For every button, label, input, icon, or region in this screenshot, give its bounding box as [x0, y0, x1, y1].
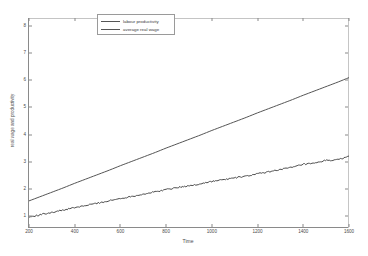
y-axis-tick-mark [29, 53, 32, 54]
y-axis-tick-mark-right [345, 53, 348, 54]
x-axis-tick-mark-top [29, 18, 30, 21]
legend-label: average real wage [123, 27, 159, 32]
series-line-labour-productivity [29, 78, 349, 201]
y-axis-tick-label: 2 [23, 186, 26, 191]
series-line-average-real-wage [29, 156, 349, 217]
x-axis-tick-label: 200 [25, 230, 33, 235]
y-axis-tick-mark [29, 26, 32, 27]
x-axis-tick-mark [120, 224, 121, 227]
y-axis-tick-mark [29, 215, 32, 216]
x-axis-tick-mark [74, 224, 75, 227]
y-axis-tick-mark-right [345, 161, 348, 162]
x-axis-tick-mark-top [257, 18, 258, 21]
y-axis-tick-mark-right [345, 188, 348, 189]
x-axis-tick-label: 400 [71, 230, 79, 235]
legend-item-average-real-wage: average real wage [101, 25, 171, 33]
x-axis-tick-mark [166, 224, 167, 227]
y-axis-tick-mark-right [345, 107, 348, 108]
x-axis-tick-label: 1400 [298, 230, 308, 235]
legend-item-labour-productivity: labour productivity [101, 17, 171, 25]
x-axis-tick-label: 600 [117, 230, 125, 235]
x-axis-tick-mark [257, 224, 258, 227]
x-axis-tick-mark [349, 224, 350, 227]
y-axis-tick-label: 6 [23, 78, 26, 83]
y-axis-tick-label: 8 [23, 24, 26, 29]
y-axis-tick-label: 5 [23, 105, 26, 110]
legend-line-icon [101, 29, 120, 30]
y-axis-tick-mark-right [345, 80, 348, 81]
y-axis-tick-label: 7 [23, 51, 26, 56]
x-axis-tick-label: 1600 [344, 230, 354, 235]
y-axis-tick-mark-right [345, 134, 348, 135]
y-axis-tick-mark [29, 161, 32, 162]
x-axis-title: Time [28, 238, 348, 244]
x-axis-tick-mark-top [349, 18, 350, 21]
x-axis-tick-label: 1000 [207, 230, 217, 235]
y-axis-title: real wage and productivity [10, 73, 15, 169]
x-axis-tick-mark-top [74, 18, 75, 21]
x-axis-tick-mark [211, 224, 212, 227]
x-axis-tick-mark-top [303, 18, 304, 21]
y-axis-tick-mark [29, 188, 32, 189]
chart-figure: 123456782004006008001000120014001600 lab… [0, 0, 368, 256]
y-axis-tick-mark-right [345, 26, 348, 27]
x-axis-tick-mark [303, 224, 304, 227]
legend-line-icon [101, 21, 120, 22]
plot-area: 123456782004006008001000120014001600 [28, 18, 348, 228]
y-axis-tick-label: 3 [23, 159, 26, 164]
legend-label: labour productivity [123, 19, 159, 24]
y-axis-tick-label: 1 [23, 214, 26, 219]
y-axis-tick-mark-right [345, 215, 348, 216]
y-axis-tick-mark [29, 107, 32, 108]
chart-legend: labour productivity average real wage [97, 14, 175, 35]
x-axis-tick-label: 1200 [252, 230, 262, 235]
x-axis-tick-label: 800 [162, 230, 170, 235]
plot-svg [29, 18, 349, 228]
y-axis-tick-mark [29, 80, 32, 81]
y-axis-tick-mark [29, 134, 32, 135]
x-axis-tick-mark-top [211, 18, 212, 21]
x-axis-tick-mark [29, 224, 30, 227]
y-axis-tick-label: 4 [23, 132, 26, 137]
